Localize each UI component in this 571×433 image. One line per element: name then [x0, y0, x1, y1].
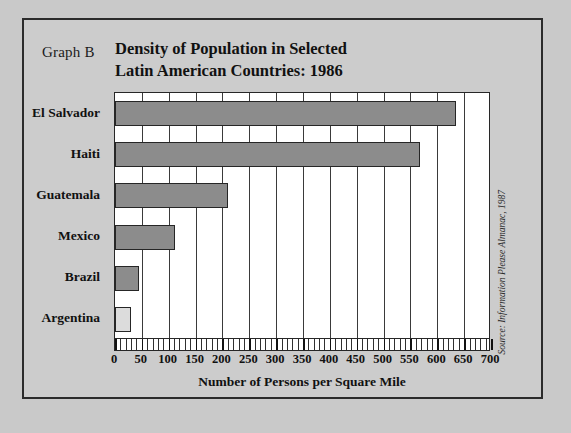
minor-tick — [190, 339, 191, 350]
x-tick-label: 150 — [185, 352, 204, 367]
minor-tick — [265, 339, 266, 350]
category-axis-labels: El SalvadorHaitiGuatemalaMexicoBrazilArg… — [0, 92, 108, 339]
x-tick-label: 0 — [111, 352, 117, 367]
minor-tick — [416, 339, 417, 350]
major-tick — [357, 339, 359, 350]
minor-tick — [308, 339, 309, 350]
chart-title-line-1: Density of Population in Selected — [115, 38, 445, 60]
x-tick-label: 350 — [293, 352, 312, 367]
minor-tick — [486, 339, 487, 350]
graph-label: Graph B — [42, 44, 95, 61]
minor-tick — [367, 339, 368, 350]
category-label: Argentina — [42, 310, 101, 326]
minor-tick — [185, 339, 186, 350]
major-tick — [437, 339, 439, 350]
minor-tick — [470, 339, 471, 350]
major-tick — [464, 339, 466, 350]
major-tick — [276, 339, 278, 350]
x-tick-label: 450 — [346, 352, 365, 367]
minor-tick — [212, 339, 213, 350]
minor-tick — [314, 339, 315, 350]
bar — [115, 266, 139, 291]
major-tick — [222, 339, 224, 350]
minor-tick — [244, 339, 245, 350]
x-tick-label: 50 — [135, 352, 148, 367]
minor-tick — [298, 339, 299, 350]
major-tick — [169, 339, 171, 350]
minor-tick — [174, 339, 175, 350]
x-axis-tick-strip — [114, 339, 490, 351]
minor-tick — [480, 339, 481, 350]
minor-tick — [351, 339, 352, 350]
minor-tick — [346, 339, 347, 350]
minor-tick — [282, 339, 283, 350]
minor-tick — [427, 339, 428, 350]
minor-tick — [324, 339, 325, 350]
minor-tick — [389, 339, 390, 350]
x-axis-tick-labels: 0501001502002503003504004505005506006507… — [114, 352, 490, 370]
minor-tick — [400, 339, 401, 350]
bar — [115, 307, 131, 332]
minor-tick — [341, 339, 342, 350]
x-tick-label: 100 — [158, 352, 177, 367]
x-tick-label: 550 — [400, 352, 419, 367]
bar — [115, 225, 175, 250]
chart-title-line-2: Latin American Countries: 1986 — [115, 60, 445, 82]
major-tick — [249, 339, 251, 350]
minor-tick — [136, 339, 137, 350]
plot-area — [114, 92, 490, 339]
x-tick-label: 200 — [212, 352, 231, 367]
minor-tick — [475, 339, 476, 350]
minor-tick — [120, 339, 121, 350]
minor-tick — [158, 339, 159, 350]
major-tick — [115, 339, 117, 350]
bar-series — [115, 93, 489, 338]
x-tick-label: 600 — [427, 352, 446, 367]
minor-tick — [153, 339, 154, 350]
minor-tick — [239, 339, 240, 350]
category-label: Mexico — [58, 228, 100, 244]
minor-tick — [432, 339, 433, 350]
major-tick — [303, 339, 305, 350]
x-axis-title: Number of Persons per Square Mile — [114, 374, 490, 390]
minor-tick — [179, 339, 180, 350]
major-tick — [196, 339, 198, 350]
major-tick — [330, 339, 332, 350]
x-tick-label: 300 — [266, 352, 285, 367]
major-tick — [491, 339, 493, 350]
minor-tick — [217, 339, 218, 350]
category-label: Guatemala — [36, 187, 100, 203]
minor-tick — [126, 339, 127, 350]
x-tick-label: 500 — [373, 352, 392, 367]
bar — [115, 101, 456, 126]
minor-tick — [448, 339, 449, 350]
bar — [115, 183, 228, 208]
x-tick-label: 400 — [319, 352, 338, 367]
minor-tick — [421, 339, 422, 350]
minor-tick — [206, 339, 207, 350]
minor-tick — [233, 339, 234, 350]
major-tick — [142, 339, 144, 350]
minor-tick — [362, 339, 363, 350]
minor-tick — [394, 339, 395, 350]
minor-tick — [201, 339, 202, 350]
x-tick-label: 650 — [454, 352, 473, 367]
minor-tick — [255, 339, 256, 350]
minor-tick — [459, 339, 460, 350]
source-note: Source: Information Please Almanac, 1987 — [497, 190, 507, 354]
minor-tick — [228, 339, 229, 350]
category-label: Haiti — [71, 146, 100, 162]
minor-tick — [373, 339, 374, 350]
x-tick-label: 250 — [239, 352, 258, 367]
figure-container: Graph B Density of Population in Selecte… — [0, 0, 571, 433]
minor-tick — [260, 339, 261, 350]
minor-tick — [405, 339, 406, 350]
minor-tick — [163, 339, 164, 350]
minor-tick — [131, 339, 132, 350]
minor-tick — [147, 339, 148, 350]
bar — [115, 142, 420, 167]
minor-tick — [292, 339, 293, 350]
minor-tick — [378, 339, 379, 350]
category-label: El Salvador — [32, 105, 100, 121]
minor-tick — [319, 339, 320, 350]
